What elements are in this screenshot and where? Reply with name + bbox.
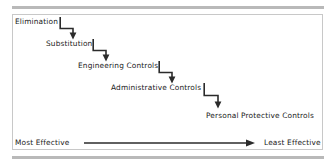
top-divider-rule [12, 6, 324, 9]
step-label-administrative-controls: Administrative Controls [111, 83, 201, 92]
connector-arrow-administrative-to-personal-protective [203, 83, 229, 111]
connector-arrow-substitution-to-engineering [92, 39, 116, 63]
scale-label-least-effective: Least Effective [264, 138, 321, 147]
step-label-elimination: Elimination [15, 17, 58, 26]
hierarchy-of-controls-diagram: Elimination Substitution Engineering Con… [0, 0, 336, 164]
connector-arrow-engineering-to-administrative [158, 61, 182, 85]
effectiveness-scale-arrow [84, 138, 256, 148]
connector-arrow-elimination-to-substitution [59, 17, 83, 41]
step-label-personal-protective-controls: Personal Protective Controls [206, 111, 314, 120]
scale-label-most-effective: Most Effective [15, 138, 69, 147]
bottom-divider-rule [12, 156, 324, 159]
step-label-engineering-controls: Engineering Controls [78, 61, 158, 70]
